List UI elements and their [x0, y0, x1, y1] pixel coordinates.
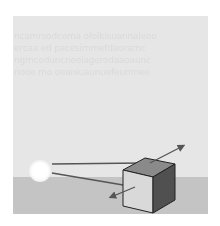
incident-ray-top: [52, 163, 143, 164]
light-reflection-scene: [0, 0, 220, 226]
cube-front-face: [123, 170, 153, 213]
cube: [123, 158, 175, 213]
reflected-ray-up: [150, 146, 183, 163]
light-source-icon: [29, 160, 51, 182]
